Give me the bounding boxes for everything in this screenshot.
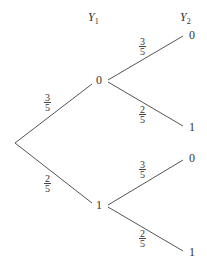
header-y2: Y2 — [180, 10, 191, 26]
prob-label-y2-lower-0: 35 — [139, 160, 146, 179]
leaf-y2-0-lower: 0 — [189, 152, 195, 164]
header-y1: Y1 — [88, 10, 99, 26]
leaf-y2-0-upper: 0 — [189, 29, 195, 41]
leaf-y2-1-upper: 1 — [189, 121, 195, 133]
prob-label-y1-1: 25 — [44, 174, 51, 193]
prob-label-y2-upper-1: 25 — [139, 105, 146, 124]
prob-label-y2-lower-1: 25 — [139, 229, 146, 248]
edge-root-to-y1-0 — [15, 84, 92, 143]
prob-label-y1-0: 35 — [44, 93, 51, 112]
node-y1-0: 0 — [96, 74, 102, 86]
edge-root-to-y1-1 — [15, 143, 92, 203]
tree-edges — [0, 0, 207, 267]
node-y1-1: 1 — [96, 199, 102, 211]
leaf-y2-1-lower: 1 — [189, 246, 195, 258]
prob-label-y2-upper-0: 35 — [139, 37, 146, 56]
